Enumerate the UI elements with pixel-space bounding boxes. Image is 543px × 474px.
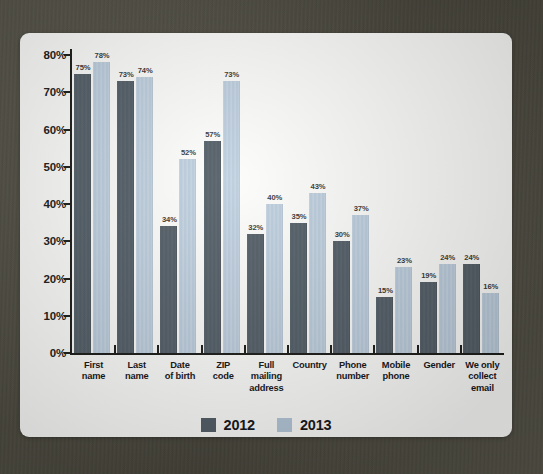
bar-group: 24%16% [461,55,504,353]
y-axis-tick-label: 60% [44,124,66,136]
y-axis-tick-label: 10% [44,310,66,322]
bar-group: 19%24% [418,55,461,353]
category-label-line: email [455,383,510,394]
y-axis-tick-mark [64,278,71,280]
bar-value-label: 73% [217,70,247,79]
legend-swatch [201,418,216,432]
y-axis-tick-mark [64,203,71,205]
y-axis-tick-mark [64,352,71,354]
category-label-line: collect [455,371,510,382]
bar-2012 [420,282,437,353]
bar-value-label: 37% [346,204,376,213]
y-axis-tick-label: 50% [44,161,66,173]
bar-group: 57%73% [202,55,245,353]
legend-item-2013[interactable]: 2013 [277,417,331,433]
bar-value-label: 74% [130,66,160,75]
bar-value-label: 52% [173,148,203,157]
bar-2012 [333,241,350,353]
bar-2013 [309,193,326,353]
bar-group: 30%37% [331,55,374,353]
y-axis-tick-label: 30% [44,235,66,247]
bar-2012 [290,223,307,353]
chart-legend: 20122013 [20,417,512,433]
chart-card: 0%10%20%30%40%50%60%70%80% 75%78%73%74%3… [20,33,512,437]
x-axis-category-label: We onlycollectemail [455,360,510,394]
bar-value-label: 43% [303,182,333,191]
bar-2013 [482,293,499,353]
legend-label: 2013 [300,417,331,433]
y-axis-labels: 0%10%20%30%40%50%60%70%80% [30,55,66,351]
bar-2013 [395,267,412,353]
bar-2012 [204,141,221,353]
y-axis-tick-mark [64,166,71,168]
y-axis-tick-label: 80% [44,49,66,61]
category-label-line: mailing [239,371,294,382]
y-axis-tick-mark [64,54,71,56]
category-label-line: We only [455,360,510,371]
bar-2013 [136,77,153,353]
category-label-line: address [239,383,294,394]
bar-group: 35%43% [288,55,331,353]
bar-value-label: 78% [87,51,117,60]
y-axis-tick-mark [64,240,71,242]
bar-2012 [463,264,480,353]
bar-value-label: 40% [260,193,290,202]
bar-2012 [247,234,264,353]
category-label-line: phone [368,371,423,382]
legend-item-2012[interactable]: 2012 [201,417,255,433]
y-axis-tick-label: 70% [44,86,66,98]
legend-swatch [277,418,292,432]
y-axis-tick-mark [64,129,71,131]
y-axis-tick-label: 20% [44,273,66,285]
bar-2013 [179,159,196,353]
y-axis-tick-mark [64,315,71,317]
x-axis-category-labels: FirstnameLastnameDateof birthZIPcodeFull… [72,360,504,416]
bar-value-label: 23% [389,256,419,265]
bar-2013 [439,264,456,353]
y-axis-tick-mark [64,91,71,93]
photo-frame: 0%10%20%30%40%50%60%70%80% 75%78%73%74%3… [0,0,543,474]
bar-group: 34%52% [158,55,201,353]
bar-2012 [74,74,91,353]
legend-label: 2012 [224,417,255,433]
bar-value-label: 16% [476,282,506,291]
bar-group: 15%23% [374,55,417,353]
bar-2013 [352,215,369,353]
bar-value-label: 24% [457,253,487,262]
bar-group: 32%40% [245,55,288,353]
bar-2012 [117,81,134,353]
bar-2013 [223,81,240,353]
plot-area: 75%78%73%74%34%52%57%73%32%40%35%43%30%3… [72,55,504,353]
bar-2013 [93,62,110,353]
bar-2012 [160,226,177,353]
bar-2013 [266,204,283,353]
bar-2012 [376,297,393,353]
bar-group: 75%78% [72,55,115,353]
bar-group: 73%74% [115,55,158,353]
grouped-bar-chart: 0%10%20%30%40%50%60%70%80% 75%78%73%74%3… [20,33,512,437]
y-axis-tick-label: 40% [44,198,66,210]
